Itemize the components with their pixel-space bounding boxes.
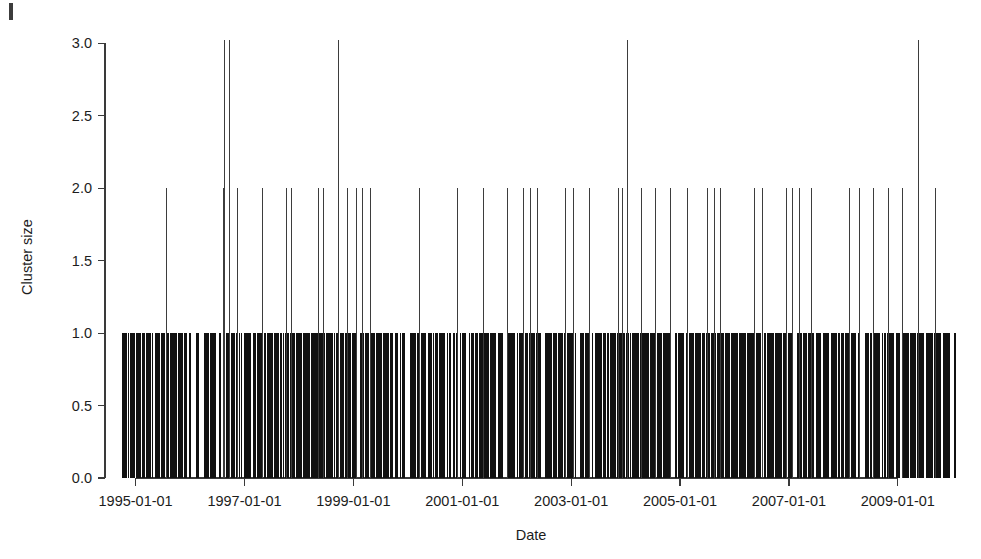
x-tick-label: 1995-01-01: [99, 493, 173, 509]
spikes-cluster-size-1: [123, 333, 956, 478]
y-tick-label: 0.0: [72, 470, 92, 486]
x-tick-label: 2007-01-01: [752, 493, 826, 509]
x-axis-title: Date: [516, 527, 547, 543]
y-axis-title: Cluster size: [19, 219, 35, 295]
x-tick-label: 2003-01-01: [534, 493, 608, 509]
y-tick-label: 0.5: [72, 398, 92, 414]
y-tick-label: 2.5: [72, 108, 92, 124]
x-tick-label: 1999-01-01: [316, 493, 390, 509]
y-tick-label: 1.5: [72, 253, 92, 269]
y-tick-label: 1.0: [72, 325, 92, 341]
y-tick-label: 3.0: [72, 35, 92, 51]
figure-canvas: 0.00.51.01.52.02.53.0 1995-01-011997-01-…: [0, 0, 981, 559]
x-tick-label: 2009-01-01: [861, 493, 935, 509]
x-tick-label: 2001-01-01: [425, 493, 499, 509]
spike-plot: 0.00.51.01.52.02.53.0 1995-01-011997-01-…: [0, 0, 981, 559]
y-axis: 0.00.51.01.52.02.53.0: [72, 35, 105, 486]
x-tick-label: 2005-01-01: [643, 493, 717, 509]
x-tick-label: 1997-01-01: [207, 493, 281, 509]
x-axis: 1995-01-011997-01-011999-01-012001-01-01…: [99, 478, 935, 509]
y-tick-label: 2.0: [72, 180, 92, 196]
